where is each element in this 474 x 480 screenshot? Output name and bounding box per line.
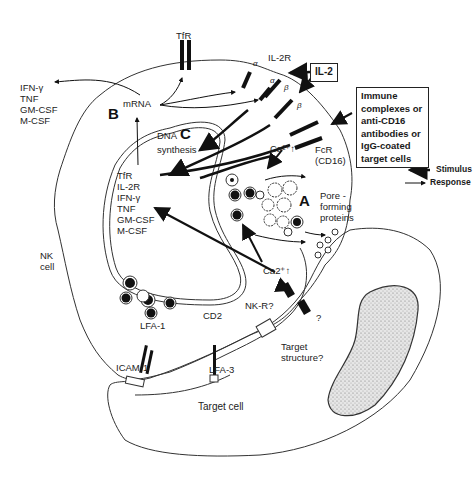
stimulus-line: anti-CD16: [361, 115, 424, 128]
legend-response: Response: [430, 177, 471, 187]
stimulus-line: Immune: [361, 90, 424, 103]
beta-1: β: [284, 82, 289, 93]
stimulus-box: Immune complexes or anti-CD16 antibodies…: [356, 87, 429, 168]
secreted-item: M-CSF: [20, 115, 57, 126]
cd2-label: CD2: [203, 310, 222, 321]
region-b: B: [108, 105, 119, 122]
nkr-label: NK-R?: [245, 300, 274, 311]
lfa1-label: LFA-1: [140, 320, 165, 331]
ca-lower-label: Ca2⁺↑: [263, 265, 290, 276]
tfr-label: TfR: [176, 30, 191, 41]
alpha-1: α: [253, 58, 258, 69]
alpha-2: α: [270, 75, 275, 86]
cd16-label: (CD16): [315, 155, 346, 166]
nuclear-item: IL-2R: [117, 181, 154, 192]
mrna-label: mRNA: [123, 98, 151, 109]
pore-line: Pore -: [320, 190, 354, 201]
il2-box: IL-2: [310, 63, 338, 82]
nk-cell-membrane: [54, 60, 352, 379]
region-a: A: [299, 192, 310, 209]
fcr-label: FcR: [315, 144, 332, 155]
region-c: C: [180, 125, 191, 142]
legend-stimulus: Stimulus: [436, 164, 472, 174]
nk-line: NK: [40, 250, 54, 261]
target-nucleus: [328, 286, 418, 416]
lfa3-label: LFA-3: [209, 364, 234, 375]
secreted-list: IFN-γ TNF GM-CSF M-CSF: [20, 82, 57, 126]
nuclear-item: M-CSF: [117, 225, 154, 236]
nuclear-item: GM-CSF: [117, 214, 154, 225]
stimulus-line: target cells: [361, 153, 424, 166]
secreted-item: IFN-γ: [20, 82, 57, 93]
il2r-label: IL-2R: [268, 52, 291, 63]
nuclear-item: TNF: [117, 203, 154, 214]
secreted-item: TNF: [20, 93, 57, 104]
dna-label: DNA: [157, 130, 177, 141]
ca-upper-label: Ca²⁺↑: [270, 143, 295, 154]
nk-cell-label: NK cell: [40, 250, 54, 272]
nuclear-item: IFN-γ: [117, 192, 154, 203]
nuclear-list: TfR IL-2R IFN-γ TNF GM-CSF M-CSF: [117, 170, 154, 236]
pore-line: proteins: [320, 212, 354, 223]
stimulus-line: complexes or: [361, 103, 424, 116]
target-structure-label: Target structure?: [281, 341, 323, 363]
nuclear-item: TfR: [117, 170, 154, 181]
stimulus-line: IgG-coated: [361, 140, 424, 153]
target-cell-label: Target cell: [198, 401, 244, 412]
icam1-label: ICAM-1: [116, 362, 148, 373]
target-structure-line: structure?: [281, 352, 323, 363]
target-structure-line: Target: [281, 341, 323, 352]
pore-forming-label: Pore - forming proteins: [320, 190, 354, 223]
pore-line: forming: [320, 201, 354, 212]
synthesis-label: synthesis: [157, 144, 197, 155]
beta-2: β: [297, 100, 302, 111]
question-label: ?: [316, 312, 321, 323]
stimulus-line: antibodies or: [361, 128, 424, 141]
nk-line: cell: [40, 261, 54, 272]
secreted-item: GM-CSF: [20, 104, 57, 115]
